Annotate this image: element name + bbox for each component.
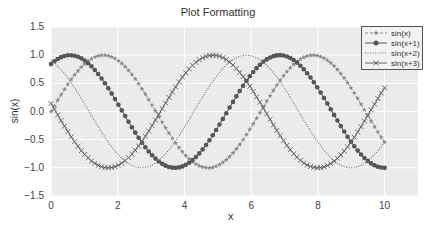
legend-label: sin(x+3) bbox=[391, 59, 420, 68]
x-tick-label: 0 bbox=[36, 200, 66, 211]
x-axis-label: x bbox=[228, 210, 234, 222]
legend-item: sin(x+3) bbox=[364, 58, 420, 68]
y-tick-label: 1.0 bbox=[4, 49, 44, 60]
y-tick-label: 0.5 bbox=[4, 77, 44, 88]
legend-label: sin(x+2) bbox=[391, 49, 420, 58]
legend-swatch-icon bbox=[364, 29, 388, 37]
y-tick-label: 1.5 bbox=[4, 21, 44, 32]
chart: Plot Formatting −1.5−1.0−0.50.00.51.01.5… bbox=[0, 0, 436, 233]
legend-swatch-icon bbox=[364, 59, 388, 67]
x-tick-label: 8 bbox=[303, 200, 333, 211]
legend-item: sin(x+1) bbox=[364, 38, 420, 48]
y-tick-label: −1.0 bbox=[4, 162, 44, 173]
y-axis-label: sin(x) bbox=[9, 99, 20, 123]
legend-swatch-icon bbox=[364, 49, 388, 57]
legend-label: sin(x+1) bbox=[391, 39, 420, 48]
y-tick-label: −0.5 bbox=[4, 134, 44, 145]
x-tick-label: 4 bbox=[169, 200, 199, 211]
legend-swatch-icon bbox=[364, 39, 388, 47]
x-tick-label: 10 bbox=[370, 200, 400, 211]
legend-label: sin(x) bbox=[391, 29, 411, 38]
x-tick-label: 6 bbox=[236, 200, 266, 211]
legend-item: sin(x) bbox=[364, 28, 420, 38]
x-tick-label: 2 bbox=[103, 200, 133, 211]
legend-item: sin(x+2) bbox=[364, 48, 420, 58]
legend: sin(x)sin(x+1)sin(x+2)sin(x+3) bbox=[361, 26, 423, 70]
